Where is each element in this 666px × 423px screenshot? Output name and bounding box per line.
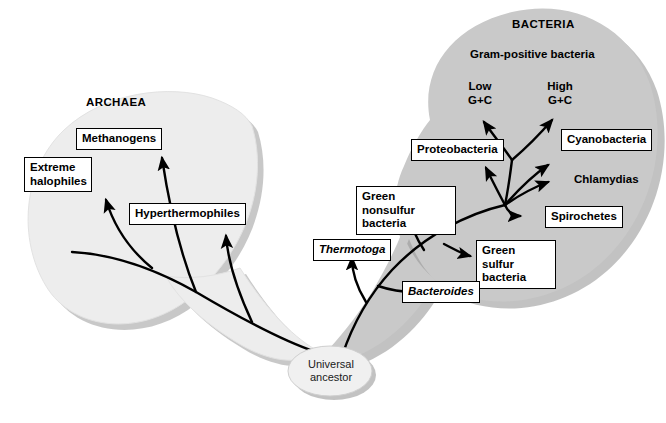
taxon-methanogens[interactable]: Methanogens — [76, 128, 162, 150]
taxon-extreme-halophiles[interactable]: Extreme halophiles — [24, 157, 92, 192]
taxon-thermotoga[interactable]: Thermotoga — [313, 239, 391, 261]
taxon-spirochetes[interactable]: Spirochetes — [545, 206, 623, 228]
taxon-hyperthermophiles[interactable]: Hyperthermophiles — [129, 203, 246, 225]
taxon-green-nonsulfur-bacteria[interactable]: Green nonsulfur bacteria — [356, 186, 456, 235]
branch-thermotoga — [352, 258, 366, 302]
taxon-proteobacteria[interactable]: Proteobacteria — [411, 139, 504, 161]
group-member-low-gc: Low G+C — [458, 80, 502, 107]
taxon-bacteroides[interactable]: Bacteroides — [402, 281, 480, 303]
group-heading-gram-positive-bacteria: Gram-positive bacteria — [470, 48, 595, 62]
phylogenetic-tree-figure: ARCHAEA BACTERIA Extreme halophiles Meth… — [0, 0, 666, 423]
taxon-chlamydias: Chlamydias — [574, 173, 639, 187]
group-member-high-gc: High G+C — [538, 80, 582, 107]
root-label-universal-ancestor: Universal ancestor — [294, 358, 368, 384]
taxon-cyanobacteria[interactable]: Cyanobacteria — [561, 129, 652, 151]
archaea-tail — [166, 268, 320, 360]
domain-title-archaea: ARCHAEA — [86, 96, 156, 110]
taxon-green-sulfur-bacteria[interactable]: Green sulfur bacteria — [476, 240, 556, 289]
domain-title-bacteria: BACTERIA — [512, 18, 588, 32]
